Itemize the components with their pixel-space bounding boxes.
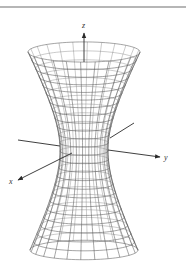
hyperboloid-mesh-front xyxy=(28,42,140,260)
z-axis-label: z xyxy=(81,21,86,30)
mesh-meridian xyxy=(85,42,87,240)
mesh-meridian xyxy=(31,49,61,247)
mesh-meridian xyxy=(81,62,83,260)
mesh-meridian xyxy=(107,55,137,253)
x-axis-arrow xyxy=(18,153,72,180)
mesh-ring xyxy=(44,217,125,224)
hyperboloid-figure: z x y xyxy=(0,0,189,270)
mesh-meridian xyxy=(53,60,71,258)
mesh-ring xyxy=(43,78,126,85)
mesh-meridian xyxy=(108,53,140,251)
y-axis-label: y xyxy=(163,153,168,162)
x-axis-back-segment xyxy=(110,123,134,138)
y-axis-arrow xyxy=(108,150,160,157)
mesh-ring xyxy=(34,242,135,251)
y-axis-back-segment xyxy=(18,140,60,146)
mesh-ring xyxy=(30,250,138,260)
mesh-ring xyxy=(40,225,127,233)
x-axis-label: x xyxy=(8,177,13,186)
mesh-meridian xyxy=(105,47,134,245)
